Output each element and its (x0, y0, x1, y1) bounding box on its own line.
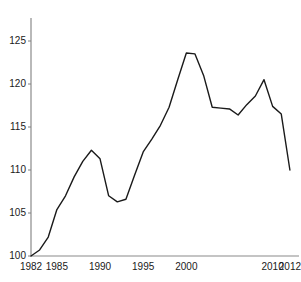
line-chart: 100105110115120125 198219851990199520002… (0, 0, 301, 282)
y-axis-tick-label: 100 (2, 251, 26, 261)
axes-group (28, 18, 299, 256)
y-axis-tick-label: 120 (2, 79, 26, 89)
x-axis-tick-label: 1985 (46, 262, 68, 272)
x-axis-tick-label: 2012 (279, 262, 301, 272)
x-axis-tick-label: 1995 (132, 262, 154, 272)
y-axis-tick-label: 110 (2, 165, 26, 175)
x-axis-tick-label: 2000 (175, 262, 197, 272)
y-axis-tick-label: 115 (2, 122, 26, 132)
y-axis-tick-label: 105 (2, 208, 26, 218)
x-axis-tick-label: 1990 (89, 262, 111, 272)
chart-plot-area (0, 0, 301, 282)
y-axis-tick-label: 125 (2, 36, 26, 46)
data-series-line (31, 53, 290, 256)
x-axis-tick-label: 1982 (20, 262, 42, 272)
